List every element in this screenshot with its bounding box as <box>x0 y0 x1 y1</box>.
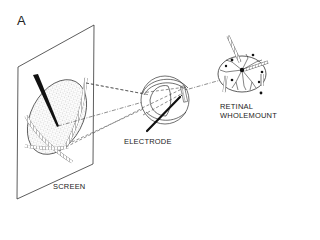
label-electrode: ELECTRODE <box>124 137 172 146</box>
label-screen: SCREEN <box>53 182 85 191</box>
eye-globe <box>86 76 189 124</box>
label-retinal: RETINAL <box>220 102 253 111</box>
retinal-wholemount <box>218 36 268 94</box>
label-wholemount: WHOLEMOUNT <box>220 111 277 120</box>
